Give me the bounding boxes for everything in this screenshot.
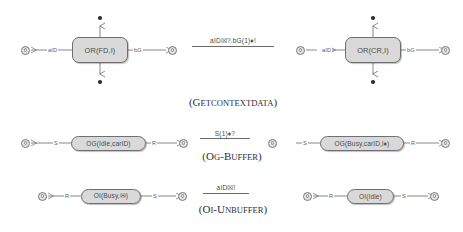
row1-left-target-endpoint [168, 46, 177, 55]
edge-label-r-row2-left: R [151, 140, 157, 146]
row2-right-source-endpoint [268, 139, 277, 148]
state-box-or-fd-i[interactable]: OR(FD,I) [72, 37, 128, 63]
state-box-og-idle-carid[interactable]: OG(Idle,carID) [71, 136, 146, 151]
state-box-oi-idle[interactable]: OI(Idle) [347, 189, 394, 204]
diagram-canvas: OR(FD,I) aID bG aID☒?.bG(1)♦! OR(CR,I) a… [0, 0, 463, 232]
state-box-or-cr-i[interactable]: OR(CR,I) [345, 37, 401, 63]
row3-right-source-endpoint [303, 192, 312, 201]
row2-right-target-endpoint [441, 139, 450, 148]
edge-label-s-row3-right: S [401, 193, 407, 199]
transition-text-getcontextdata: aID☒?.bG(1)♦! [192, 37, 274, 46]
edge-label-bg-row1-left: bG [133, 47, 143, 53]
transition-text-oi-unbuffer: aID☒! [203, 184, 249, 193]
row3-right-target-endpoint [430, 192, 439, 201]
caption-text-og-buffer: (OG-BUFFER) [202, 150, 261, 162]
caption-getcontextdata: (GETCONTEXTDATA) [163, 96, 303, 108]
edge-label-r-row2-right: R [410, 140, 416, 146]
caption-og-buffer: (OG-BUFFER) [182, 150, 282, 162]
edge-label-s-row2-right: S [302, 140, 308, 146]
transition-rule [203, 193, 249, 194]
caption-text-oi-unbuffer: (OI-UNBUFFER) [199, 203, 267, 215]
row2-left-target-endpoint [179, 139, 188, 148]
caption-oi-unbuffer: (OI-UNBUFFER) [178, 203, 288, 215]
transition-label-og-buffer: S(1)♦? [200, 130, 250, 139]
edge-label-aid-row1-right: aID [321, 47, 332, 53]
transition-rule [192, 46, 274, 47]
row1-left-source-endpoint [21, 46, 30, 55]
state-box-oi-busy[interactable]: OI(Busy,✉) [81, 189, 141, 204]
row1-right-source-endpoint [296, 46, 305, 55]
transition-label-oi-unbuffer: aID☒! [203, 184, 249, 194]
edge-label-r-row3-left: R [64, 193, 70, 199]
edge-label-aid-row1-left: aID [47, 47, 58, 53]
edge-label-r-row3-right: R [328, 193, 334, 199]
transition-rule [200, 138, 250, 139]
transition-label-getcontextdata: aID☒?.bG(1)♦! [192, 37, 274, 47]
row3-left-source-endpoint [38, 192, 47, 201]
caption-text-getcontextdata: (GETCONTEXTDATA) [189, 96, 277, 108]
row1-right-target-endpoint [441, 46, 450, 55]
edge-label-bg-row1-right: bG [406, 47, 416, 53]
edge-label-s-row2-left: S [53, 140, 59, 146]
row2-left-source-endpoint [21, 139, 30, 148]
transition-text-og-buffer: S(1)♦? [200, 130, 250, 138]
row3-left-target-endpoint [178, 192, 187, 201]
state-box-og-busy-carid[interactable]: OG(Busy,carID,l♦) [320, 136, 404, 151]
edge-label-s-row3-left: S [152, 193, 158, 199]
